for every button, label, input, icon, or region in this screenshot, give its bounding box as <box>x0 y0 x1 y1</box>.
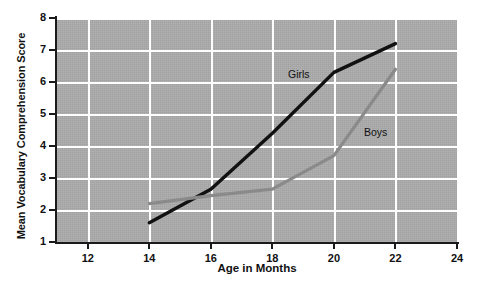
series-line-girls <box>149 44 395 223</box>
series-lines <box>0 0 479 290</box>
series-label-boys: Boys <box>364 126 387 138</box>
vocabulary-comprehension-chart: Mean Vocabulary Comprehension Score 1234… <box>0 0 479 290</box>
x-axis-title: Age in Months <box>57 262 457 274</box>
series-line-boys <box>149 69 395 203</box>
series-label-girls: Girls <box>288 68 310 80</box>
